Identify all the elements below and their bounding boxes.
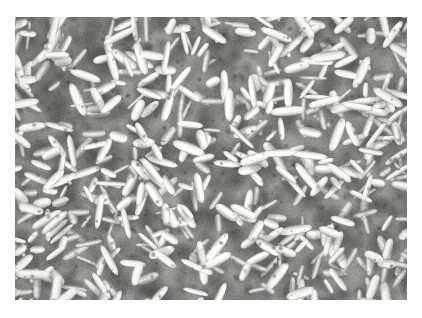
rice-photo-canvas: [15, 17, 407, 300]
image-page: [0, 0, 422, 318]
rice-photograph: [15, 17, 407, 300]
